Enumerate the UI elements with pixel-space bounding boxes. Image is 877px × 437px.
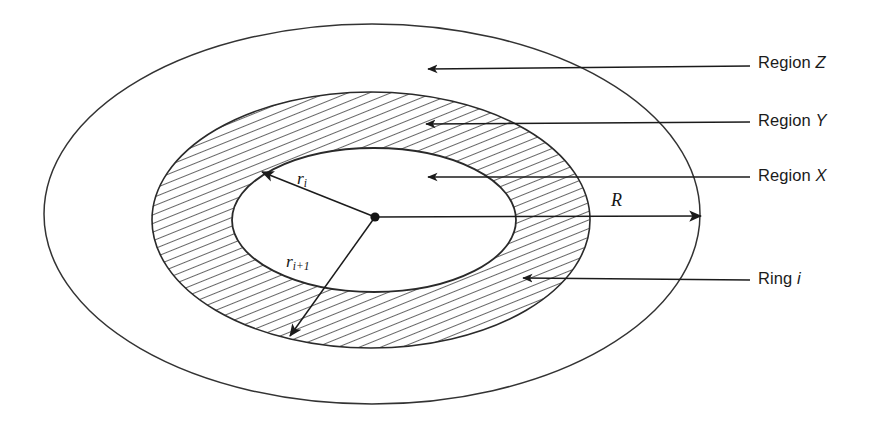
leader-line-region-z: [428, 66, 750, 69]
label-region-z-prefix: Region: [758, 53, 816, 71]
label-region-y: Region Y: [758, 111, 827, 130]
radius-line-r-big: [375, 216, 701, 217]
label-ring-i-symbol: i: [797, 269, 801, 287]
label-radius-r-i-sub: i: [304, 177, 307, 189]
label-region-x: Region X: [758, 166, 827, 185]
label-radius-r-i-base: r: [297, 168, 304, 188]
label-radius-r-i-plus-1-sub: i+1: [293, 260, 310, 272]
center-point-dot: [370, 212, 379, 221]
ring-diagram-svg: [0, 0, 877, 437]
label-radius-r-i-plus-1: ri+1: [286, 251, 310, 272]
label-ring-i-prefix: Ring: [758, 269, 797, 287]
label-radius-r-i-plus-1-base: r: [286, 251, 293, 271]
label-region-y-prefix: Region: [758, 111, 816, 129]
label-region-z-symbol: Z: [816, 53, 826, 71]
label-region-y-symbol: Y: [816, 111, 827, 129]
label-radius-r-i: ri: [297, 168, 307, 189]
label-region-z: Region Z: [758, 53, 826, 72]
label-region-x-prefix: Region: [758, 166, 816, 184]
label-ring-i: Ring i: [758, 269, 801, 288]
label-radius-r-big: R: [611, 190, 622, 211]
label-radius-r-big-base: R: [611, 190, 622, 210]
figure-canvas: Region Z Region Y Region X Ring i ri ri+…: [0, 0, 877, 437]
label-region-x-symbol: X: [816, 166, 827, 184]
